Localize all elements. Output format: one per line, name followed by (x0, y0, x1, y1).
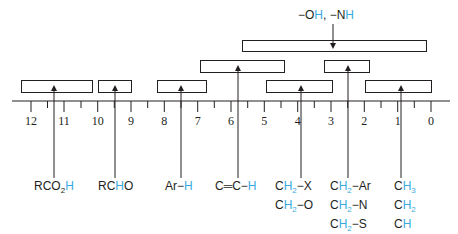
range-box-alpha-heteroatom (267, 81, 333, 93)
tick-label-1: 1 (395, 115, 401, 127)
label-vinyl: C═C−H (215, 179, 257, 193)
tick-label-6: 6 (228, 115, 234, 127)
tick-label-2: 2 (361, 115, 367, 127)
tick-label-9: 9 (128, 115, 134, 127)
nmr-chemical-shift-diagram: 12 11 10 9 8 7 6 5 4 3 2 1 0 −OH, −NH RC… (0, 0, 458, 234)
label-ch: CH (394, 217, 416, 231)
tick-label-5: 5 (261, 115, 267, 127)
range-box-aromatic (158, 81, 207, 93)
tick-label-12: 12 (25, 115, 37, 127)
label-ch2-o: CH2−O (275, 198, 313, 217)
label-ch2-ar: CH2−Ar (330, 179, 378, 198)
label-ch2-s: CH2−S (330, 217, 378, 234)
label-carboxylic-acid: RCO2H (34, 179, 74, 198)
label-aromatic: Ar−H (165, 179, 193, 193)
label-ch3: CH3 (394, 179, 416, 198)
range-box-vinyl (201, 61, 285, 73)
tick-label-3: 3 (328, 115, 334, 127)
tick-label-0: 0 (428, 115, 434, 127)
label-ch2-x: CH2−X (275, 179, 313, 198)
label-aldehyde: RCHO (98, 179, 133, 193)
label-alpha-heteroatom-group: CH2−X CH2−O (275, 179, 313, 217)
tick-label-11: 11 (58, 115, 70, 127)
label-ch2: CH2 (394, 198, 416, 217)
tick-label-10: 10 (92, 115, 104, 127)
tick-label-8: 8 (161, 115, 167, 127)
range-box-allylic-benzylic (325, 61, 370, 73)
range-box-carboxylic-acid (22, 81, 93, 93)
range-box-oh-nh (243, 41, 427, 52)
label-alkyl-group: CH3 CH2 CH (394, 179, 416, 231)
label-ch2-n: CH2−N (330, 198, 378, 217)
range-boxes (22, 41, 432, 93)
tick-label-4: 4 (295, 115, 301, 127)
major-ticks (31, 101, 431, 112)
label-allylic-benzylic-group: CH2−Ar CH2−N CH2−S CH2C═O CH2C═C C≡CH (330, 179, 378, 234)
tick-label-7: 7 (195, 115, 201, 127)
range-box-alkyl (366, 81, 432, 93)
label-oh-nh: −OH, −NH (298, 8, 354, 22)
